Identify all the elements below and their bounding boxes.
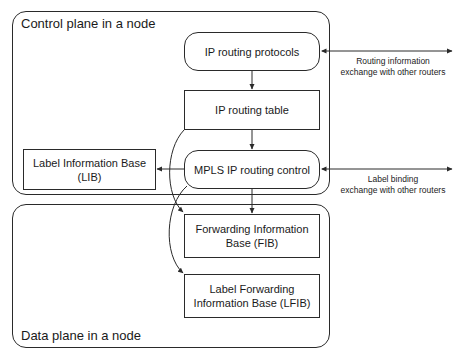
fib-label-line1: Forwarding Information [195,222,308,236]
fib-label-line2: Base (FIB) [226,236,279,250]
lib-label-line1: Label Information Base [33,156,146,170]
data-plane-label: Data plane in a node [21,328,141,343]
lib-label-line2: (LIB) [78,170,102,184]
ip-routing-table-label: IP routing table [215,103,289,117]
control-plane-label: Control plane in a node [21,16,155,31]
ip-routing-protocols-label: IP routing protocols [205,45,300,59]
lfib-box: Label Forwarding Information Base (LFIB) [184,274,320,318]
label-binding-line1: Label binding [333,174,453,185]
label-binding-line2: exchange with other routers [333,185,453,196]
ip-routing-table-box: IP routing table [184,90,320,130]
lfib-label-line2: Information Base (LFIB) [194,296,311,310]
ip-routing-protocols-box: IP routing protocols [184,32,320,71]
lib-box: Label Information Base (LIB) [23,149,156,190]
routing-info-exchange-label: Routing information exchange with other … [333,56,453,78]
label-binding-exchange-label: Label binding exchange with other router… [333,174,453,196]
routing-info-line2: exchange with other routers [333,67,453,78]
lfib-label-line1: Label Forwarding [210,282,295,296]
fib-box: Forwarding Information Base (FIB) [184,214,320,258]
mpls-ip-routing-control-box: MPLS IP routing control [184,150,320,189]
routing-info-line1: Routing information [333,56,453,67]
mpls-ip-routing-control-label: MPLS IP routing control [194,163,310,177]
